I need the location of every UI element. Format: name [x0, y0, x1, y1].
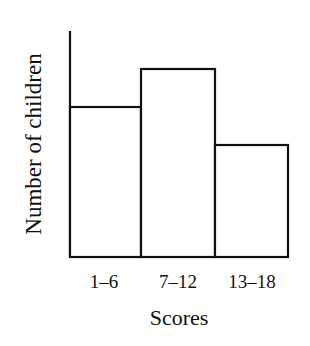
x-tick-label: 1–6: [90, 271, 119, 293]
bar-7–12: [141, 69, 215, 257]
bar-13–18: [215, 145, 288, 257]
x-axis-label: Scores: [150, 305, 209, 331]
x-tick-label: 13–18: [228, 271, 276, 293]
bar-1–6: [70, 107, 141, 257]
x-tick-label: 7–12: [159, 271, 197, 293]
histogram-chart: Number of children 1–6 7–12 13–18 Scores: [0, 0, 310, 346]
bars: [70, 69, 288, 257]
